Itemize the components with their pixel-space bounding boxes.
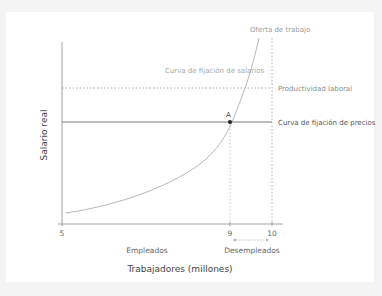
employed-label: Empleados: [126, 246, 167, 255]
wage-setting-curve: [66, 38, 259, 213]
unemployed-label: Desempleados: [224, 246, 280, 255]
tick-label-10: 10: [267, 229, 277, 238]
productivity-label: Productividad laboral: [278, 85, 352, 93]
wage-setting-label: Curva de fijación de salarios: [165, 67, 264, 75]
chart-svg: Oferta de trabajo Curva de fijación de s…: [0, 0, 382, 296]
arrow-right-icon: [266, 239, 269, 242]
arrow-left-icon: [233, 239, 236, 242]
point-a-label: A: [226, 111, 231, 119]
labor-supply-label: Oferta de trabajo: [250, 26, 310, 34]
y-axis-label: Salario real: [39, 110, 49, 161]
tick-label-9: 9: [228, 229, 233, 238]
tick-label-5: 5: [60, 229, 65, 238]
price-setting-label: Curva de fijación de precios: [278, 119, 376, 127]
x-axis-label: Trabajadores (millones): [126, 264, 232, 274]
point-a: [228, 120, 232, 124]
